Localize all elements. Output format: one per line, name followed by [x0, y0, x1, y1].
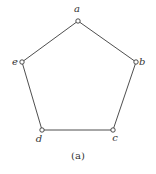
- vertex-label-c: c: [112, 132, 118, 143]
- figure-caption: (a): [71, 150, 85, 161]
- edge-e-a: [22, 21, 78, 62]
- vertex-label-d: d: [36, 133, 42, 144]
- vertex-d: [40, 128, 44, 132]
- vertex-b: [134, 60, 138, 64]
- vertex-e: [20, 60, 24, 64]
- edge-d-e: [22, 62, 42, 130]
- pentagon-graph: abcde (a): [0, 0, 156, 174]
- edge-b-c: [113, 62, 136, 130]
- vertex-label-a: a: [74, 3, 80, 14]
- vertex-label-e: e: [12, 56, 18, 67]
- vertex-label-b: b: [139, 56, 145, 67]
- vertex-labels: abcde: [12, 3, 145, 144]
- vertex-a: [76, 19, 80, 23]
- edge-a-b: [78, 21, 136, 62]
- graph-edges: [22, 21, 136, 130]
